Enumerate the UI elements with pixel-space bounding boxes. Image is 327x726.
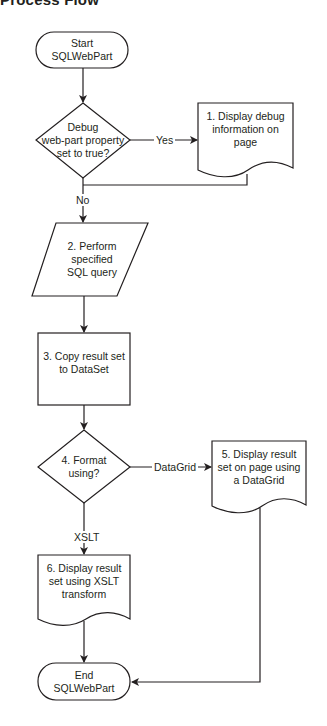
step5-label: 5. Display result set on page using a Da… xyxy=(212,446,306,488)
step3-label: 3. Copy result set to DataSet xyxy=(38,348,130,378)
no-edge-label: No xyxy=(74,194,91,206)
step2-label: 2. Perform specified SQL query xyxy=(46,238,138,280)
step4-label: 4. Format using? xyxy=(38,452,130,482)
start-label: Start SQLWebPart xyxy=(36,32,128,68)
debug-decision-label: Debug web-part property set to true? xyxy=(36,118,130,162)
yes-edge-label: Yes xyxy=(154,134,175,146)
end-label: End SQLWebPart xyxy=(38,663,130,700)
step1-label: 1. Display debug information on page xyxy=(198,108,293,150)
step6-label: 6. Display result set using XSLT transfo… xyxy=(38,560,130,602)
connector-step5-to-end xyxy=(132,508,260,682)
datagrid-edge-label: DataGrid xyxy=(152,461,198,473)
xslt-edge-label: XSLT xyxy=(72,531,101,543)
